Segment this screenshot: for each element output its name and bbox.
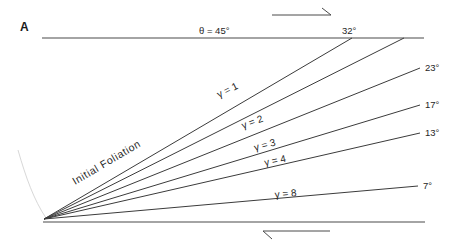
angle-label-theta-45: θ = 45° xyxy=(199,25,230,36)
gamma-label-4: γ = 4 xyxy=(263,153,287,168)
ghost-curve-artifact xyxy=(18,150,46,218)
figure-panel-a: A θ = 45° 32° 23° 17° 13° 7° xyxy=(0,0,464,250)
shear-foliation-diagram: θ = 45° 32° 23° 17° 13° 7° γ = 1 γ = 2 γ… xyxy=(0,0,464,250)
angle-label-23: 23° xyxy=(425,62,440,73)
angle-label-7: 7° xyxy=(423,180,432,191)
bottom-shear-arrow-icon xyxy=(263,231,330,239)
foliation-ray-45deg xyxy=(44,38,352,219)
angle-label-32: 32° xyxy=(342,25,357,36)
gamma-label-2: γ = 2 xyxy=(240,113,265,131)
gamma-label-3: γ = 3 xyxy=(253,137,277,153)
angle-label-17: 17° xyxy=(425,99,440,110)
top-shear-arrow-icon xyxy=(272,8,331,15)
gamma-label-8: γ = 8 xyxy=(274,187,297,200)
initial-foliation-label: Initial Foliation xyxy=(70,137,143,187)
angle-label-13: 13° xyxy=(425,127,440,138)
gamma-label-1: γ = 1 xyxy=(215,80,240,100)
foliation-ray-13deg xyxy=(44,133,420,219)
